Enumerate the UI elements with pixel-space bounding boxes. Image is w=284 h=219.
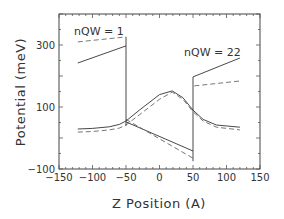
- x-tick-label: 50: [187, 172, 200, 183]
- series-line: [126, 122, 193, 151]
- x-tick-label: −50: [115, 172, 136, 183]
- series-line: [194, 81, 240, 86]
- x-axis-label: Z Position (A): [112, 196, 206, 211]
- x-tick-label: −100: [79, 172, 106, 183]
- series-line: [126, 119, 193, 158]
- series-line: [193, 58, 240, 77]
- annotation-nqw-1: nQW = 1: [74, 25, 124, 38]
- x-tick-label: 0: [156, 172, 162, 183]
- y-axis-label: Potential (meV): [13, 38, 28, 146]
- potential-chart: −150−100−50050100150−100100300 nQW = 1 n…: [0, 0, 284, 219]
- annotation-nqw-22: nQW = 22: [184, 46, 241, 59]
- y-tick-label: −100: [28, 164, 55, 175]
- x-tick-label: 100: [217, 172, 236, 183]
- series-line: [78, 92, 240, 132]
- x-tick-label: 150: [250, 172, 269, 183]
- axis-ticks: −150−100−50050100150−100100300: [28, 14, 270, 183]
- series-line: [78, 91, 240, 129]
- y-tick-label: 100: [36, 102, 55, 113]
- series-line: [78, 46, 126, 63]
- y-tick-label: 300: [36, 40, 55, 51]
